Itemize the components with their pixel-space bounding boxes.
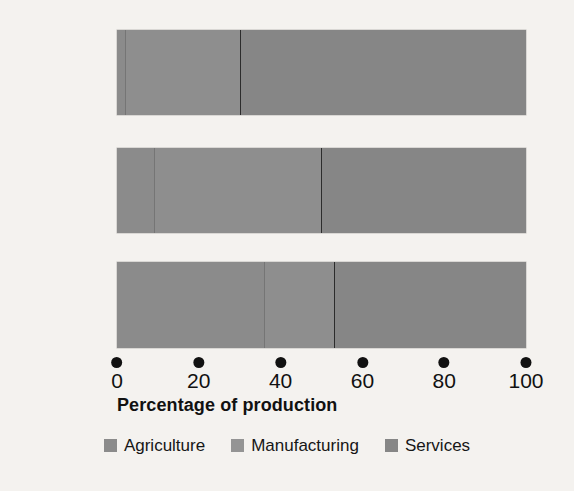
tick-dot-icon bbox=[357, 357, 368, 368]
x-axis-tick-label: 60 bbox=[351, 370, 374, 391]
x-axis-tick-100: 100 bbox=[508, 357, 543, 391]
tick-dot-icon bbox=[112, 357, 123, 368]
x-axis-tick-80: 80 bbox=[433, 357, 456, 391]
bar-china[interactable] bbox=[117, 148, 526, 233]
legend-swatch-icon bbox=[385, 439, 398, 452]
bar-segment-canada-services[interactable] bbox=[240, 30, 526, 115]
tick-dot-icon bbox=[439, 357, 450, 368]
bar-segment-china-manufacturing[interactable] bbox=[154, 148, 322, 233]
bar-segment-china-services[interactable] bbox=[321, 148, 526, 233]
bar-segment-ethiopia-manufacturing[interactable] bbox=[264, 262, 334, 348]
legend-swatch-icon bbox=[104, 439, 117, 452]
x-axis: 020406080100 bbox=[117, 357, 526, 397]
legend-item-label: Manufacturing bbox=[251, 437, 359, 454]
x-axis-tick-60: 60 bbox=[351, 357, 374, 391]
x-axis-tick-label: 80 bbox=[433, 370, 456, 391]
bar-segment-ethiopia-services[interactable] bbox=[334, 262, 526, 348]
chart-legend: AgricultureManufacturingServices bbox=[0, 437, 574, 454]
x-axis-tick-label: 0 bbox=[111, 370, 123, 391]
bar-ethiopia[interactable] bbox=[117, 262, 526, 348]
tick-dot-icon bbox=[193, 357, 204, 368]
x-axis-tick-40: 40 bbox=[269, 357, 292, 391]
bar-canada[interactable] bbox=[117, 30, 526, 115]
legend-item-manufacturing[interactable]: Manufacturing bbox=[231, 437, 359, 454]
legend-item-label: Services bbox=[405, 437, 470, 454]
stacked-bar-chart: Canada China Ethiopia 020406080100 Perce… bbox=[0, 0, 574, 491]
bar-segment-ethiopia-agriculture[interactable] bbox=[117, 262, 264, 348]
x-axis-tick-label: 100 bbox=[508, 370, 543, 391]
legend-swatch-icon bbox=[231, 439, 244, 452]
legend-item-services[interactable]: Services bbox=[385, 437, 470, 454]
x-axis-title: Percentage of production bbox=[117, 395, 337, 416]
x-axis-tick-label: 40 bbox=[269, 370, 292, 391]
bar-segment-canada-agriculture[interactable] bbox=[117, 30, 125, 115]
x-axis-tick-20: 20 bbox=[187, 357, 210, 391]
tick-dot-icon bbox=[275, 357, 286, 368]
x-axis-tick-0: 0 bbox=[111, 357, 123, 391]
x-axis-tick-label: 20 bbox=[187, 370, 210, 391]
bar-segment-canada-manufacturing[interactable] bbox=[125, 30, 240, 115]
bar-segment-china-agriculture[interactable] bbox=[117, 148, 154, 233]
legend-item-agriculture[interactable]: Agriculture bbox=[104, 437, 205, 454]
legend-item-label: Agriculture bbox=[124, 437, 205, 454]
tick-dot-icon bbox=[520, 357, 531, 368]
